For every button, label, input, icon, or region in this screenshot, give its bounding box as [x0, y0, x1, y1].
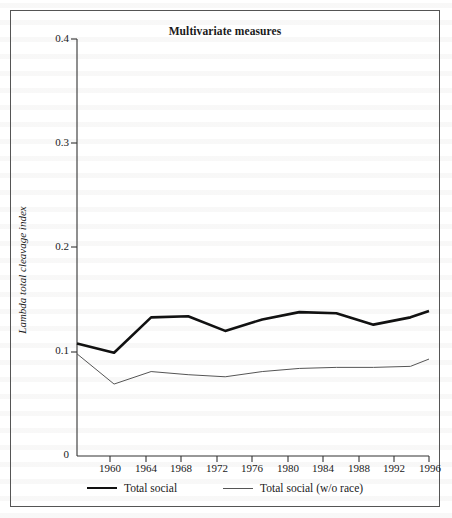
- legend-line-swatch-thick-icon: [87, 487, 117, 489]
- axis-lines: [77, 39, 429, 456]
- figure-frame: Multivariate measures Lambda total cleav…: [10, 10, 440, 507]
- series-line-total-social: [77, 311, 429, 353]
- chart-legend: Total social Total social (w/o race): [11, 482, 439, 494]
- chart-plot-area: [11, 11, 441, 508]
- y-axis-ticks: [71, 39, 77, 352]
- legend-item-total-social: Total social: [87, 482, 177, 494]
- x-axis-ticks: [110, 456, 429, 462]
- legend-item-total-social-wo-race: Total social (w/o race): [223, 482, 363, 494]
- legend-label-total-social-wo-race: Total social (w/o race): [260, 482, 363, 494]
- legend-line-swatch-thin-icon: [223, 488, 253, 489]
- legend-label-total-social: Total social: [124, 482, 177, 494]
- series-line-total-social-wo-race: [77, 354, 429, 384]
